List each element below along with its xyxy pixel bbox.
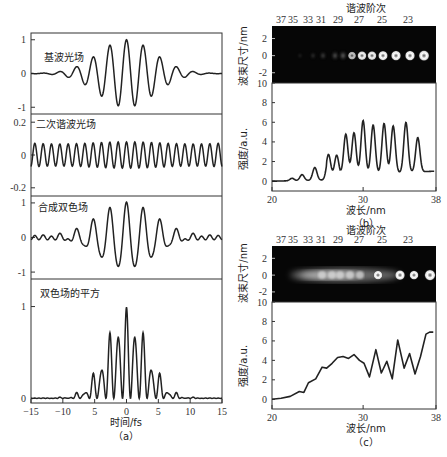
y-tick-label: 0 — [262, 394, 267, 405]
harmonic-order-label: 25 — [377, 14, 387, 25]
y-tick-label: 4 — [262, 355, 267, 366]
panel-c-xlabel: 波长/nm — [346, 422, 385, 434]
x-tick-label: 20 — [267, 194, 277, 205]
y-tick-label: 4 — [262, 136, 267, 147]
figure: 基波光场 二次谐波光场 合成双色场 双色场的平方 10-10.20-0.210-… — [0, 0, 447, 457]
panel-b-xlabel: 波长/nm — [346, 204, 385, 216]
harmonic-order-label: 31 — [316, 234, 326, 245]
y-tick-label: 0 — [21, 393, 26, 404]
harmonic-order-label: 29 — [333, 234, 343, 245]
subplot-curve-0 — [31, 40, 222, 106]
y-tick-label: 10 — [257, 78, 267, 89]
panel-c: 谐波阶次 3735333129272523 20-2 波束尺寸/nm 10864… — [237, 224, 441, 448]
panel-a-xlabel: 时间/fs — [110, 416, 142, 428]
panel-b-ylabel: 强度/a.u. — [237, 128, 249, 170]
x-tick-label: 5 — [156, 406, 161, 417]
panel-a-frame — [31, 33, 222, 403]
y-tick-label: 0 — [21, 232, 26, 243]
y-tick-label: 0.2 — [14, 117, 27, 128]
image-y-tick-label: 2 — [262, 253, 267, 264]
y-tick-label: 8 — [262, 316, 267, 327]
x-tick-label: 30 — [358, 412, 368, 423]
panel-b-plot-frame — [272, 83, 436, 191]
x-tick-label: −10 — [55, 406, 71, 417]
x-tick-label: 30 — [358, 194, 368, 205]
harmonic-order-label: 37 — [276, 14, 286, 25]
harmonic-order-label: 27 — [354, 234, 364, 245]
x-tick-label: −15 — [23, 406, 39, 417]
y-tick-label: 1 — [21, 34, 26, 45]
x-tick-label: 10 — [185, 406, 195, 417]
x-tick-label: 20 — [267, 412, 277, 423]
y-tick-label: 1 — [21, 301, 26, 312]
panel-c-ylabel: 强度/a.u. — [237, 345, 249, 387]
x-tick-label: 0 — [124, 406, 129, 417]
panel-b-x-ticks: 203038 — [267, 187, 441, 205]
y-tick-label: 8 — [262, 97, 267, 108]
image-y-tick-label: 0 — [262, 50, 267, 61]
harmonic-order-label: 33 — [303, 234, 313, 245]
harmonic-order-label: 31 — [316, 14, 326, 25]
harmonic-order-label: 23 — [403, 14, 413, 25]
panel-b-image-ylabel: 波束尺寸/nm — [237, 26, 249, 85]
y-tick-label: 2 — [262, 156, 267, 167]
y-tick-label: 0 — [21, 150, 26, 161]
y-tick-label: 0 — [21, 68, 26, 79]
panel-a-x-ticks: −15−105051015 — [23, 399, 227, 417]
harmonic-order-label: 25 — [377, 234, 387, 245]
x-tick-label: 15 — [217, 406, 227, 417]
panel-b: 谐波阶次 3735333129272523 20-2 波束尺寸/nm 10864… — [237, 2, 441, 229]
panel-a: 基波光场 二次谐波光场 合成双色场 双色场的平方 10-10.20-0.210-… — [10, 33, 227, 442]
y-tick-label: 2 — [262, 374, 267, 385]
subplot-title-square: 双色场的平方 — [40, 287, 100, 299]
panel-c-image-ylabel: 波束尺寸/nm — [237, 243, 249, 302]
harmonic-order-label: 35 — [288, 234, 298, 245]
y-tick-label: 6 — [262, 117, 267, 128]
y-tick-label: 10 — [257, 297, 267, 308]
harmonic-order-label: 29 — [333, 14, 343, 25]
x-tick-label: 38 — [431, 194, 441, 205]
panel-c-x-ticks: 203038 — [267, 405, 441, 423]
panel-a-caption: （a） — [113, 431, 139, 442]
subplot-title-second-harmonic: 二次谐波光场 — [36, 118, 96, 130]
subplot-curve-3 — [31, 307, 222, 398]
image-y-tick-label: 0 — [262, 270, 267, 281]
harmonic-order-label: 23 — [403, 234, 413, 245]
subplot-title-fundamental: 基波光场 — [44, 51, 84, 63]
panel-a-curves — [31, 40, 222, 399]
y-tick-label: -1 — [18, 267, 26, 278]
harmonic-order-label: 35 — [288, 14, 298, 25]
harmonic-order-label: 33 — [303, 14, 313, 25]
panel-b-spectrum-line — [272, 121, 434, 182]
y-tick-label: -0.2 — [10, 182, 26, 193]
panel-c-caption: （c） — [353, 437, 379, 448]
y-tick-label: -1 — [18, 102, 26, 113]
y-tick-label: 1 — [21, 197, 26, 208]
harmonic-order-label: 27 — [354, 14, 364, 25]
panel-c-spectrum-line — [272, 332, 433, 399]
image-y-tick-label: 2 — [262, 33, 267, 44]
x-tick-label: 5 — [92, 406, 97, 417]
panel-c-beam-spots — [290, 268, 436, 282]
panel-b-image-title: 谐波阶次 — [346, 2, 386, 14]
y-tick-label: 6 — [262, 335, 267, 346]
subplot-title-two-color: 合成双色场 — [38, 201, 88, 213]
y-tick-label: 0 — [262, 176, 267, 187]
harmonic-order-label: 37 — [276, 234, 286, 245]
x-tick-label: 38 — [431, 412, 441, 423]
subplot-curve-1 — [31, 142, 222, 168]
